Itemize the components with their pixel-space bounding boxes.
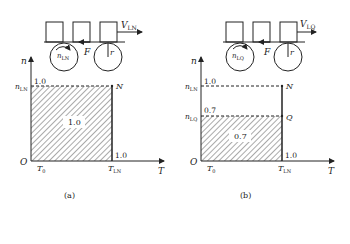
y-axis-label: n [21,56,27,66]
x-tick-tln: TLN [108,164,122,174]
x-tick-value: 1.0 [285,151,297,160]
block [226,22,243,42]
x-tick-tln: TLN [278,164,292,174]
y-tick-label: nLN [15,82,28,92]
point-n [281,85,283,87]
rotation-arrow [233,46,247,49]
y-tick2-value: 0.7 [204,106,216,115]
block [73,22,90,42]
x-tick-t0: T0 [207,164,216,174]
y-tick-value: 1.0 [34,77,46,86]
vehicle-mechanism-b: VLQ F nLQ r [223,19,316,71]
caption-a: (a) [64,191,75,200]
area-label: 1.0 [68,118,81,127]
y-axis-label: n [191,56,197,66]
block [280,22,297,42]
x-axis-label: T [158,166,165,176]
panel-a: VLN F nLN r n T O 1.0 nLN N 1.0 1. [15,20,165,200]
caption-b: (b) [240,191,251,200]
x-axis-label: T [328,166,335,176]
velocity-label: VLQ [300,19,315,30]
block [253,22,270,42]
point-q [281,115,283,117]
x-tick-value: 1.0 [115,151,127,160]
point-q-label: Q [286,113,293,122]
area-label: 0.7 [234,132,247,141]
radius-label: r [110,48,115,57]
point-n-label: N [285,82,294,91]
rotation-arrow [56,47,70,50]
point-n [111,85,113,87]
block [46,22,63,42]
panel-b: VLQ F nLQ r n T O 1.0 nLN 0.7 nLQ [185,19,335,200]
origin-label: O [20,157,28,167]
radius-label: r [290,48,295,57]
graph-a: n T O 1.0 nLN N 1.0 1.0 T0 TLN [15,56,165,176]
diagram-canvas: VLN F nLN r n T O 1.0 nLN N 1.0 1. [0,0,350,244]
wheel-speed-label: nLN [57,52,70,61]
velocity-label: VLN [121,20,137,31]
force-label: F [83,47,91,57]
graph-b: n T O 1.0 nLN 0.7 nLQ N Q 0.7 1.0 T0 TLN [185,56,335,176]
y-tick-value: 1.0 [204,77,216,86]
force-label: F [263,47,271,57]
vehicle-mechanism-a: VLN F nLN r [44,20,142,71]
block [100,22,117,42]
x-tick-t0: T0 [37,164,46,174]
y-tick-label: nLN [185,82,198,92]
point-n-label: N [115,82,124,91]
wheel-speed-label: nLQ [232,52,244,61]
y-tick2-label: nLQ [185,112,197,122]
origin-label: O [190,157,198,167]
